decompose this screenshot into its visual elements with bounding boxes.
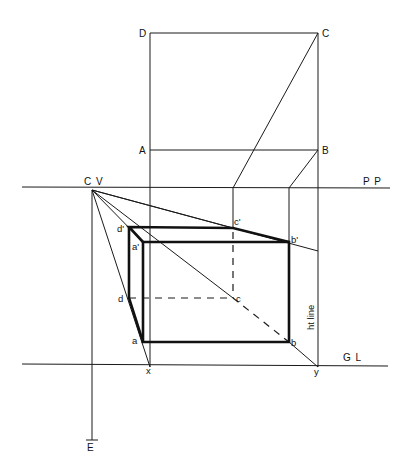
label-c-prime: c' <box>234 216 241 227</box>
hidden-edge-cb <box>233 298 289 342</box>
label-height-line: ht line <box>305 305 316 330</box>
label-C: C <box>322 28 329 39</box>
label-D: D <box>139 28 146 39</box>
box-front-face <box>143 242 289 342</box>
perspective-construction-diagram: D C A B C V P P G L E ht line d' a' c' b… <box>0 0 411 474</box>
label-pp: P P <box>363 176 382 187</box>
projector-c <box>233 33 318 188</box>
vanishing-lines <box>92 190 318 367</box>
label-d: d <box>118 293 123 304</box>
label-a-prime: a' <box>132 241 139 252</box>
box-visible-edges <box>129 227 289 342</box>
cv-line-to-c <box>92 190 233 298</box>
cv-line-to-c-prime <box>92 190 233 228</box>
projector-lines <box>150 33 318 367</box>
ground-line <box>22 364 388 366</box>
plan-rectangle <box>150 33 318 150</box>
label-e: E <box>87 442 94 453</box>
label-B: B <box>322 145 329 156</box>
label-x: x <box>146 365 151 376</box>
projector-b <box>289 150 318 188</box>
label-a: a <box>132 335 138 346</box>
label-d-prime: d' <box>117 223 124 234</box>
label-b-prime: b' <box>291 234 298 245</box>
label-gl: G L <box>343 352 362 363</box>
box-top-face <box>129 227 289 242</box>
label-c: c <box>236 293 241 304</box>
label-A: A <box>139 145 146 156</box>
picture-plane-line <box>22 187 390 188</box>
label-y: y <box>314 366 319 377</box>
label-b: b <box>291 337 296 348</box>
label-cv: C V <box>84 176 104 187</box>
